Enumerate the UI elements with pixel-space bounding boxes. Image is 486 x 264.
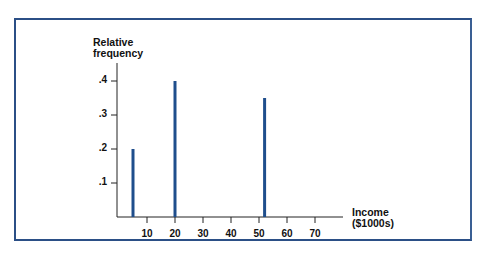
y-tick-label: .3 (87, 108, 107, 119)
x-tick-label: 60 (275, 228, 299, 239)
x-tick-label: 70 (303, 228, 327, 239)
plot-area (0, 0, 486, 264)
x-tick-label: 40 (219, 228, 243, 239)
y-tick-label: .4 (87, 74, 107, 85)
y-tick-label: .1 (87, 176, 107, 187)
y-tick-label: .2 (87, 142, 107, 153)
x-tick-label: 10 (135, 228, 159, 239)
x-tick-label: 30 (191, 228, 215, 239)
x-tick-label: 50 (247, 228, 271, 239)
x-tick-label: 20 (163, 228, 187, 239)
